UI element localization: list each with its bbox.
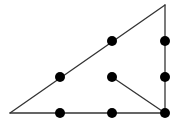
triangle-dot-diagram xyxy=(0,0,179,129)
dot-6 xyxy=(55,108,65,118)
dot-7 xyxy=(107,108,117,118)
line-inner-segment xyxy=(112,77,165,113)
diagram-lines xyxy=(10,5,165,113)
diagram-dots xyxy=(55,36,170,118)
dot-1 xyxy=(107,36,117,46)
dot-2 xyxy=(160,36,170,46)
dot-8 xyxy=(160,108,170,118)
dot-3 xyxy=(55,72,65,82)
dot-5 xyxy=(160,72,170,82)
dot-4 xyxy=(107,72,117,82)
